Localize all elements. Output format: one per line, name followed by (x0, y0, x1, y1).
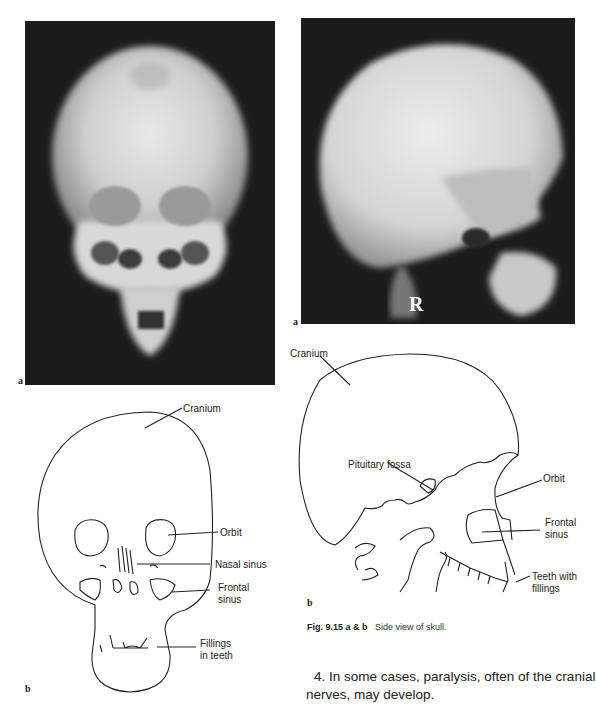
figure-caption-text: Side view of skull. (375, 622, 447, 632)
front-label-fillings-1: Fillings (200, 638, 231, 649)
front-label-cranium: Cranium (183, 403, 221, 414)
body-line-2: nerves, may develop. (306, 686, 596, 704)
front-skull-xray (25, 21, 275, 385)
body-line-1: 4. In some cases, paralysis, often of th… (306, 668, 596, 686)
side-skull-xray-image (301, 18, 575, 324)
figure-number: Fig. 9.15 a & b (307, 622, 368, 632)
side-label-teeth-1: Teeth with (532, 571, 577, 582)
side-skull-xray: R (301, 18, 575, 324)
front-label-fillings-2: in teeth (200, 650, 233, 661)
front-label-orbit: Orbit (220, 527, 242, 538)
side-label-frontal-sinus-2: sinus (545, 529, 568, 540)
front-label-frontal-sinus-1: Frontal (218, 582, 249, 593)
front-label-frontal-sinus-2: sinus (218, 594, 241, 605)
panel-letter-front-xray: a (18, 375, 23, 386)
side-label-frontal-sinus-1: Frontal (545, 517, 576, 528)
side-label-pituitary-fossa: Pituitary fossa (348, 459, 411, 470)
figure-caption: Fig. 9.15 a & b Side view of skull. (307, 622, 447, 632)
front-label-nasal-sinus: Nasal sinus (215, 559, 267, 570)
side-label-cranium: Cranium (290, 348, 328, 359)
panel-letter-side-diagram: b (307, 597, 313, 608)
front-skull-xray-image (25, 21, 275, 385)
panel-letter-side-xray: a (293, 316, 298, 327)
side-label-orbit: Orbit (543, 473, 565, 484)
side-xray-marker: R (409, 293, 423, 316)
body-paragraph: 4. In some cases, paralysis, often of th… (306, 668, 596, 704)
side-label-teeth-2: fillings (532, 583, 560, 594)
front-skull-diagram (0, 390, 290, 707)
panel-letter-front-diagram: b (25, 683, 31, 694)
side-skull-diagram (290, 330, 595, 600)
